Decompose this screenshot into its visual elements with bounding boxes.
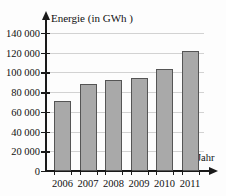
- x-axis-tick-label: 2006: [52, 178, 73, 189]
- y-axis-tick-label: 80 000: [0, 87, 40, 98]
- y-axis-tick-label: 140 000: [0, 28, 40, 39]
- x-axis-tick-label: 2007: [78, 178, 99, 189]
- bar: [54, 101, 71, 171]
- y-axis-tick-label: 100 000: [0, 67, 40, 78]
- x-axis-tick-label: 2009: [129, 178, 150, 189]
- bar: [182, 51, 199, 171]
- y-axis-title: Energie (in GWh ): [51, 12, 133, 24]
- x-axis-tick: [122, 170, 123, 175]
- x-axis-tick: [80, 170, 81, 175]
- x-axis-tick-label: 2011: [180, 178, 201, 189]
- bar-chart-figure: Energie (in GWh ) Jahr 020 00040 00060 0…: [0, 0, 226, 196]
- x-axis-tick-label: 2008: [103, 178, 124, 189]
- x-axis-tick: [182, 170, 183, 175]
- bar: [80, 84, 97, 171]
- y-axis-tick-label: 120 000: [0, 47, 40, 58]
- y-axis-tick-label: 20 000: [0, 146, 40, 157]
- x-axis-tick: [54, 170, 55, 175]
- x-axis-tick: [97, 170, 98, 175]
- plot-area: [46, 26, 204, 171]
- x-axis-tick: [173, 170, 174, 175]
- bar: [105, 80, 122, 171]
- x-axis-tick: [105, 170, 106, 175]
- x-axis-tick: [148, 170, 149, 175]
- bar: [131, 78, 148, 171]
- y-axis-arrow-icon: [42, 11, 50, 20]
- x-axis-tick: [156, 170, 157, 175]
- y-axis-tick-label: 40 000: [0, 126, 40, 137]
- x-axis-tick: [71, 170, 72, 175]
- y-axis-tick-label: 0: [0, 166, 40, 177]
- x-axis-tick: [199, 170, 200, 175]
- x-axis-arrow-icon: [209, 167, 218, 175]
- bar: [156, 69, 173, 172]
- x-axis-tick: [131, 170, 132, 175]
- y-axis-tick-label: 60 000: [0, 106, 40, 117]
- x-axis-tick-label: 2010: [154, 178, 175, 189]
- y-axis-tick: [41, 171, 50, 172]
